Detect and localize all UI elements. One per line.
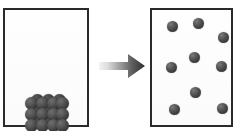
gas-particle bbox=[217, 103, 228, 114]
gas-particle bbox=[166, 62, 177, 73]
gas-particle bbox=[216, 61, 227, 72]
lattice-sphere-front bbox=[56, 119, 69, 131]
transition-arrow bbox=[99, 52, 145, 80]
gas-particle bbox=[169, 104, 180, 115]
crystal-lattice bbox=[25, 94, 69, 131]
phase-change-diagram bbox=[0, 0, 238, 131]
gas-particle bbox=[167, 21, 178, 32]
gas-particle bbox=[190, 87, 201, 98]
arrow-shape bbox=[99, 54, 145, 78]
left-container bbox=[3, 8, 89, 127]
gas-particle bbox=[218, 32, 229, 43]
gas-particle bbox=[189, 52, 200, 63]
gas-particle bbox=[193, 18, 204, 29]
